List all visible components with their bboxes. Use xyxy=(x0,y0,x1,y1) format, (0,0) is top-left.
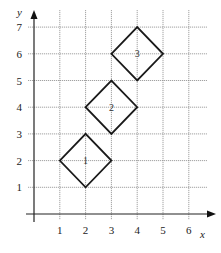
axes xyxy=(26,10,216,222)
coordinate-grid-chart: 1234561234567 123 y x xyxy=(0,0,221,253)
y-tick-label: 3 xyxy=(17,128,23,140)
x-axis-label: x xyxy=(199,228,205,240)
y-tick-label: 4 xyxy=(17,101,23,113)
x-tick-label: 2 xyxy=(83,224,89,236)
x-tick-label: 3 xyxy=(109,224,115,236)
y-tick-label: 6 xyxy=(17,48,23,60)
x-tick-label: 6 xyxy=(186,224,192,236)
x-axis-arrow-icon xyxy=(207,211,216,218)
y-tick-label: 7 xyxy=(17,21,23,33)
y-axis-label: y xyxy=(16,6,22,18)
y-tick-label: 5 xyxy=(17,75,23,87)
y-tick-label: 1 xyxy=(17,181,23,193)
diamond-label: 3 xyxy=(135,48,140,59)
tick-labels: 1234561234567 xyxy=(17,21,193,236)
diamond-1: 1 xyxy=(60,134,112,187)
diamond-label: 1 xyxy=(83,155,88,166)
grid-lines xyxy=(28,10,207,220)
diamond-label: 2 xyxy=(109,102,114,113)
x-tick-label: 4 xyxy=(134,224,140,236)
y-axis-arrow-icon xyxy=(31,10,38,19)
x-tick-label: 5 xyxy=(160,224,166,236)
x-tick-label: 1 xyxy=(57,224,63,236)
y-tick-label: 2 xyxy=(17,155,23,167)
